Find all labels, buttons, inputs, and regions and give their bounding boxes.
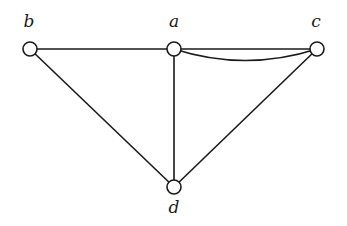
node-label-a: a <box>169 11 179 31</box>
node-d <box>167 180 181 194</box>
node-a <box>167 42 181 56</box>
node-label-b: b <box>24 11 35 31</box>
node-label-d: d <box>169 197 180 217</box>
edge-a-c-curved <box>174 49 317 61</box>
edge-b-d <box>30 49 174 187</box>
node-b <box>23 42 37 56</box>
node-c <box>310 42 324 56</box>
graph-canvas <box>0 0 347 226</box>
node-label-c: c <box>311 11 321 31</box>
edge-c-d <box>174 49 317 187</box>
